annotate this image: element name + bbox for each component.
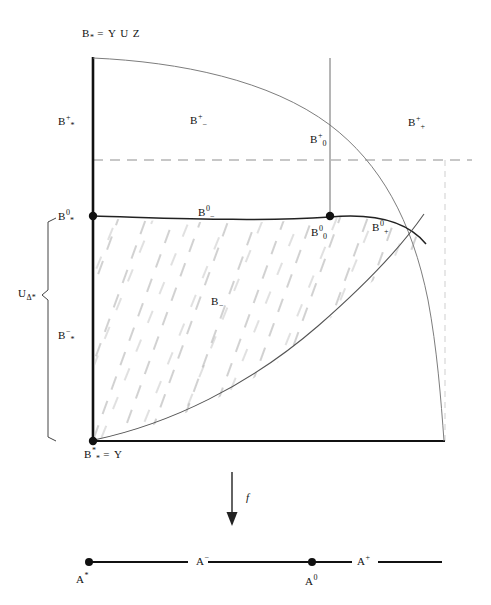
- B-star-star-node: [89, 437, 97, 445]
- label-A-minus: A−: [196, 556, 209, 567]
- base-line: [85, 558, 442, 566]
- label-B-minus-zero: B0−: [198, 207, 214, 218]
- label-sub: *: [70, 216, 74, 225]
- label-B-plus-plus: B++: [408, 117, 425, 128]
- label-sup: 0: [314, 573, 318, 582]
- label-B-plus-zero: B0+: [372, 222, 388, 233]
- label-B-zero-zero: B00: [311, 227, 327, 238]
- label-U-delta-star: UΔ*: [18, 288, 36, 299]
- label-base: A: [196, 555, 205, 567]
- label-sup: *: [85, 571, 89, 580]
- label-sup: −: [205, 553, 210, 562]
- label-value: Y: [114, 448, 123, 460]
- hatched-region: [90, 205, 435, 450]
- figure-canvas: [0, 0, 491, 605]
- label-base: B: [372, 221, 380, 233]
- label-base: U: [18, 287, 27, 299]
- label-B-star-plus: B+*: [58, 116, 74, 127]
- label-base: B: [58, 210, 66, 222]
- label-A-plus: A+: [357, 556, 370, 567]
- label-sub: 0: [323, 232, 327, 241]
- A-star-node: [85, 558, 93, 566]
- label-B-minus-region: B−: [211, 296, 223, 307]
- left-bracket: [42, 218, 56, 441]
- label-A-star: A*: [76, 574, 89, 585]
- label-base: B: [211, 295, 219, 307]
- map-arrow-label: f: [246, 492, 250, 503]
- label-base: B: [310, 133, 318, 145]
- label-base: A: [305, 575, 314, 587]
- label-B-minus-plus: B+−: [190, 115, 207, 126]
- label-sub: +: [420, 122, 425, 131]
- title-label: B* = Y U Z: [82, 28, 141, 39]
- label-base: B: [311, 226, 319, 238]
- title-equals: =: [97, 27, 104, 39]
- label-base: B: [84, 448, 92, 460]
- label-A-zero: A0: [305, 576, 318, 587]
- label-B-star-zero: B0*: [58, 211, 74, 222]
- B-star-zero-node: [89, 212, 97, 220]
- label-sub: 0: [322, 139, 326, 148]
- label-B-star-minus: B−*: [58, 330, 74, 341]
- label-B-zero-plus: B+0: [310, 134, 326, 145]
- A-zero-node: [308, 558, 316, 566]
- label-base: B: [58, 115, 66, 127]
- label-base: B: [408, 116, 416, 128]
- label-base: A: [76, 573, 85, 585]
- label-sub: −: [219, 301, 224, 310]
- figure-root: B* = Y U Z B+* B0* B−* B+− B++ B+0 B0− B…: [0, 0, 491, 605]
- title-value: Y U Z: [108, 27, 141, 39]
- label-sub: *: [70, 121, 74, 130]
- label-base: B: [58, 329, 66, 341]
- label-sub: −: [202, 120, 207, 129]
- label-sub: −: [210, 212, 215, 221]
- label-base: A: [357, 555, 366, 567]
- map-arrow: [227, 472, 238, 526]
- B-zero-zero-node: [326, 212, 334, 220]
- label-sub: *: [96, 454, 100, 463]
- label-sub: Δ*: [27, 293, 36, 302]
- title-sub: *: [90, 33, 94, 42]
- label-sup: +: [366, 553, 371, 562]
- label-base: B: [190, 114, 198, 126]
- label-B-star-star-equals-Y: B** = Y: [84, 449, 123, 460]
- label-equals: =: [103, 448, 110, 460]
- label-sub: +: [384, 227, 389, 236]
- label-base: B: [198, 206, 206, 218]
- label-sub: *: [70, 335, 74, 344]
- title-base: B: [82, 27, 90, 39]
